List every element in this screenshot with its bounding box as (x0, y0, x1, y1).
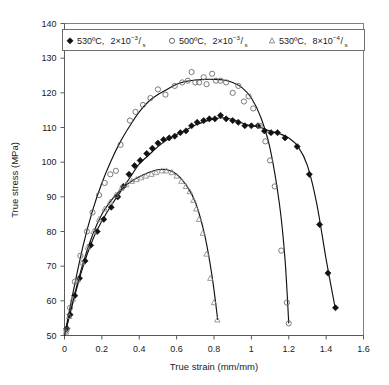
x-tick-label: 0.8 (208, 344, 221, 354)
legend-rate-exponent: −3 (233, 34, 241, 41)
x-axis-title: True strain (mm/mm) (170, 361, 258, 372)
y-tick-label: 120 (41, 88, 56, 98)
x-tick-label: 1.6 (357, 344, 370, 354)
y-tick-label: 80 (46, 227, 56, 237)
y-axis-title: True stress (MPa) (9, 142, 20, 218)
legend-temperature: 530ºC, (77, 36, 104, 46)
chart-legend[interactable]: 530ºC,2×10−3/s500ºC,2×10−3/s530ºC,8×10−4… (63, 30, 365, 51)
legend-rate-unit: s (345, 41, 348, 48)
x-tick-label: 1 (249, 344, 254, 354)
legend-temperature: 500ºC, (179, 36, 206, 46)
x-tick-label: 1.4 (320, 344, 333, 354)
figure-container: 5060708090100110120130140 True stress (M… (0, 0, 389, 385)
x-tick-label: 0.6 (170, 344, 183, 354)
true-stress-true-strain-chart: 5060708090100110120130140 True stress (M… (0, 0, 389, 385)
y-tick-label: 100 (41, 157, 56, 167)
y-tick-label: 70 (46, 261, 56, 271)
x-tick-label: 0.2 (96, 344, 109, 354)
chart-background (0, 0, 389, 385)
legend-rate-exponent: −3 (131, 34, 139, 41)
y-tick-label: 60 (46, 296, 56, 306)
legend-rate-coefficient: 2×10 (213, 36, 233, 46)
legend-rate-exponent: −4 (333, 34, 341, 41)
x-tick-label: 1.2 (282, 344, 295, 354)
legend-rate-unit: s (245, 41, 248, 48)
y-tick-label: 110 (42, 123, 56, 133)
legend-rate-unit: s (143, 41, 146, 48)
x-tick-label: 0.4 (133, 344, 146, 354)
legend-rate-coefficient: 2×10 (111, 36, 131, 46)
x-tick-label: 0 (62, 344, 67, 354)
y-tick-label: 130 (41, 53, 56, 63)
legend-rate-coefficient: 8×10 (313, 36, 333, 46)
y-tick-label: 90 (46, 192, 56, 202)
y-tick-label: 50 (46, 331, 56, 341)
legend-temperature: 530ºC, (279, 36, 306, 46)
y-tick-label: 140 (41, 19, 56, 29)
